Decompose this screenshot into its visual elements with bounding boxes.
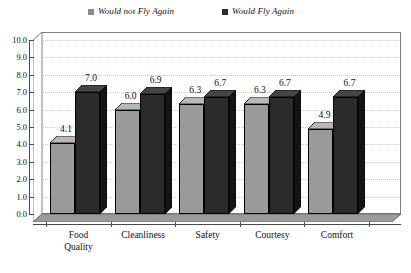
legend-swatch-icon (222, 9, 228, 15)
x-axis-category-label: Comfort (321, 229, 353, 241)
y-axis-tick-label: 1.0 (16, 192, 27, 201)
y-axis: 10.09.08.07.06.05.04.03.02.01.00.0 (0, 32, 34, 222)
legend-label: Would not Fly Again (98, 6, 174, 17)
bar (75, 32, 100, 222)
x-axis-category-labels: Food QualityCleanlinessSafetyCourtesyCom… (33, 229, 401, 269)
x-axis-tick (175, 222, 176, 227)
bar-value-label: 6.0 (125, 91, 137, 101)
x-axis-category-label: Safety (196, 229, 220, 241)
bar-front-face (204, 97, 229, 214)
y-axis-tick-label: 7.0 (16, 88, 27, 97)
bar-value-label: 6.7 (344, 78, 356, 88)
bar (333, 32, 358, 222)
bar-front-face (308, 129, 333, 214)
bar (269, 32, 294, 222)
y-axis-tick-label: 0.0 (16, 210, 27, 219)
legend-swatch-icon (88, 9, 94, 15)
bar-side-face (358, 90, 365, 214)
x-axis-tick (111, 222, 112, 227)
y-axis-tick-label: 3.0 (16, 157, 27, 166)
bar-front-face (333, 97, 358, 214)
legend-label: Would Fly Again (232, 6, 294, 17)
bar-value-label: 6.9 (150, 75, 162, 85)
bar-front-face (140, 94, 165, 214)
bar-side-face (100, 85, 107, 214)
bar-top-face (204, 90, 236, 97)
bar-front-face (115, 110, 140, 214)
bar-top-face (269, 90, 301, 97)
bar-front-face (244, 104, 269, 214)
bar-front-face (75, 92, 100, 214)
bar (204, 32, 229, 222)
bar-top-face (75, 85, 107, 92)
bar (244, 32, 269, 222)
bar-value-label: 6.7 (214, 78, 226, 88)
y-axis-tick-label: 5.0 (16, 123, 27, 132)
y-axis-tick-label: 4.0 (16, 140, 27, 149)
bar (308, 32, 333, 222)
bar-top-face (140, 87, 172, 94)
x-axis-tick (46, 222, 47, 227)
bar (140, 32, 165, 222)
x-axis-category-label: Courtesy (255, 229, 289, 241)
bar-front-face (179, 104, 204, 214)
x-axis-category-label: Cleanliness (121, 229, 165, 241)
x-axis-tick (369, 222, 370, 227)
bar-value-label: 6.3 (189, 85, 201, 95)
x-axis-category-label: Food Quality (64, 229, 93, 253)
bar-side-face (165, 87, 172, 214)
chart-legend: Would not Fly Again Would Fly Again (0, 6, 411, 22)
bar-value-label: 7.0 (85, 73, 97, 83)
y-axis-tick-label: 6.0 (16, 105, 27, 114)
bar-chart: Would not Fly Again Would Fly Again 10.0… (0, 0, 411, 273)
y-axis-tick-label: 8.0 (16, 70, 27, 79)
y-axis-tick-label: 10.0 (12, 36, 27, 45)
legend-entry-would-fly-again: Would Fly Again (222, 6, 294, 17)
bar-value-label: 4.9 (319, 110, 331, 120)
y-axis-tick-label: 2.0 (16, 175, 27, 184)
bar-value-label: 4.1 (60, 124, 72, 134)
x-axis-line (33, 224, 401, 225)
bar-side-face (229, 90, 236, 214)
bar (115, 32, 140, 222)
bar-front-face (269, 97, 294, 214)
bar-front-face (50, 143, 75, 214)
y-axis-tick-label: 9.0 (16, 53, 27, 62)
bar-side-face (294, 90, 301, 214)
x-axis-tick (240, 222, 241, 227)
bars-layer: 4.17.06.06.96.36.76.36.74.96.7 (33, 32, 401, 222)
bar-top-face (333, 90, 365, 97)
bar (179, 32, 204, 222)
x-axis-tick (304, 222, 305, 227)
bar-value-label: 6.7 (279, 78, 291, 88)
bar-value-label: 6.3 (254, 85, 266, 95)
legend-entry-would-not-fly-again: Would not Fly Again (88, 6, 174, 17)
